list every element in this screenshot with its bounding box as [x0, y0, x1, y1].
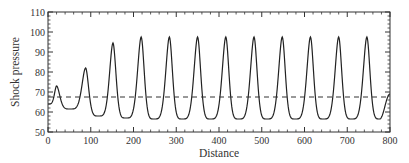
y-axis-title: Shock pressure — [9, 37, 22, 107]
x-axis-title: Distance — [199, 147, 239, 159]
y-tick-label: 100 — [30, 27, 45, 38]
x-tick-label: 100 — [83, 135, 98, 146]
shock-pressure-line — [48, 37, 390, 119]
x-tick-label: 500 — [254, 135, 269, 146]
x-tick-label: 0 — [46, 135, 51, 146]
y-tick-label: 60 — [35, 107, 45, 118]
plot-frame — [48, 12, 390, 132]
y-tick-label: 50 — [35, 127, 45, 138]
y-tick-label: 70 — [35, 87, 45, 98]
x-tick-label: 300 — [169, 135, 184, 146]
x-tick-label: 600 — [297, 135, 312, 146]
x-tick-label: 200 — [126, 135, 141, 146]
y-tick-label: 90 — [35, 47, 45, 58]
y-tick-label: 80 — [35, 67, 45, 78]
shock-pressure-chart: 0100200300400500600700800506070809010011… — [0, 0, 409, 163]
x-tick-label: 700 — [340, 135, 355, 146]
y-tick-label: 110 — [30, 7, 45, 18]
x-tick-label: 800 — [383, 135, 398, 146]
plot-area — [48, 37, 390, 119]
x-tick-label: 400 — [212, 135, 227, 146]
